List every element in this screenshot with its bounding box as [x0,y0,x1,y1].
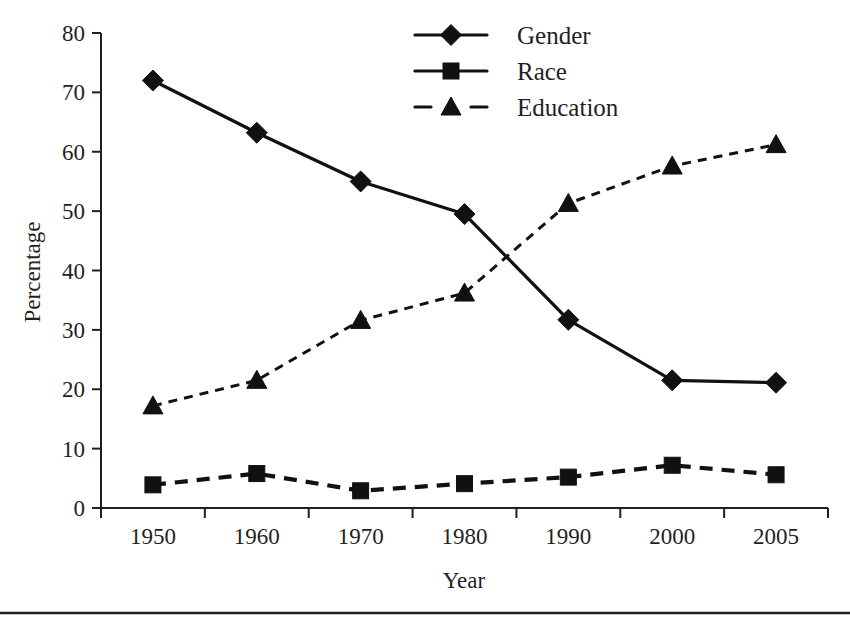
series-marker-race [768,467,784,483]
x-axis-title: Year [443,568,486,593]
x-axis-ticks [101,508,828,518]
line-chart: 01020304050607080 1950196019701980199020… [0,0,850,627]
series-marker-gender [662,370,683,391]
x-tick-label: 1960 [234,524,280,549]
series-marker-gender [246,122,267,143]
series-marker-education [766,135,786,153]
axes-group [101,33,828,508]
series-marker-race [353,483,369,499]
series-marker-gender [766,372,787,393]
x-tick-label: 2005 [753,524,799,549]
series-marker-race [664,457,680,473]
y-axis-title: Percentage [20,222,45,323]
chart-legend: GenderRaceEducation [415,22,619,121]
legend-label: Gender [517,22,591,49]
legend-marker-square [443,63,459,79]
y-tick-label: 0 [74,496,86,521]
series-marker-race [457,476,473,492]
series-marker-education [662,156,682,174]
series-marker-education [247,370,267,388]
x-axis-labels: 1950196019701980199020002005 [130,524,799,549]
legend-label: Education [517,94,619,121]
series-marker-race [145,477,161,493]
series-marker-education [351,310,371,328]
y-tick-label: 40 [62,259,85,284]
x-tick-label: 1950 [130,524,176,549]
y-axis-ticks: 01020304050607080 [62,21,101,521]
series-marker-education [558,193,578,211]
y-tick-label: 50 [62,199,85,224]
series-line-education [153,145,776,406]
x-tick-label: 1990 [545,524,591,549]
y-tick-label: 10 [62,437,85,462]
series-line-gender [153,81,776,383]
y-tick-label: 80 [62,21,85,46]
y-tick-label: 30 [62,318,85,343]
legend-marker-diamond [441,25,462,46]
legend-marker-triangle [441,97,461,115]
series-marker-gender [142,70,163,91]
series-marker-race [560,469,576,485]
series-marker-race [249,466,265,482]
x-tick-label: 1980 [442,524,488,549]
legend-label: Race [517,58,567,85]
x-tick-label: 1970 [338,524,384,549]
y-tick-label: 70 [62,80,85,105]
figure-container: 01020304050607080 1950196019701980199020… [0,0,850,627]
y-tick-label: 60 [62,140,85,165]
series-marker-gender [350,171,371,192]
y-tick-label: 20 [62,377,85,402]
x-tick-label: 2000 [649,524,695,549]
series-markers-group [142,70,786,499]
